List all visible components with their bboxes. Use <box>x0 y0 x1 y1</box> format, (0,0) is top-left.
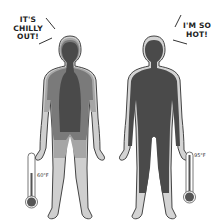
cold-figure <box>35 36 104 219</box>
speech-hot: I'M SO HOT! <box>176 22 218 39</box>
speech-line: OUT! <box>12 33 44 42</box>
speech-line: HOT! <box>176 31 218 40</box>
hot-figure <box>119 36 188 219</box>
thermometer-cold <box>26 153 38 208</box>
temperature-label-cold: 60°F <box>37 172 49 178</box>
temperature-label-hot: 95°F <box>194 152 206 158</box>
speech-cold: IT'S CHILLY OUT! <box>12 16 44 42</box>
